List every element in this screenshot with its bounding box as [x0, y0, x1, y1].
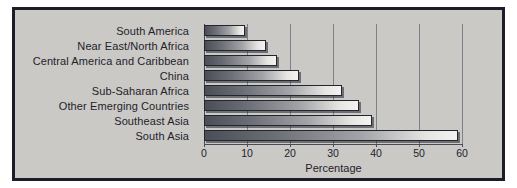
gridline	[462, 24, 463, 144]
bar	[204, 70, 299, 81]
x-axis-title: Percentage	[204, 162, 463, 174]
bar	[204, 55, 277, 66]
x-tick-label: 0	[201, 147, 207, 159]
bar-row	[204, 84, 462, 99]
chart-figure-frame: South AmericaNear East/North AfricaCentr…	[12, 7, 505, 181]
x-axis-tick-labels: 0102030405060	[204, 147, 474, 163]
category-label: South America	[15, 24, 195, 39]
x-tick-label: 20	[284, 147, 296, 159]
bar-row	[204, 99, 462, 114]
category-label: Sub-Saharan Africa	[15, 84, 195, 99]
plot-area	[204, 24, 462, 144]
category-label: Other Emerging Countries	[15, 99, 195, 114]
category-label: Near East/North Africa	[15, 39, 195, 54]
x-tick-label: 60	[456, 147, 468, 159]
bars-container	[204, 24, 462, 144]
category-axis-labels: South AmericaNear East/North AfricaCentr…	[15, 24, 195, 144]
x-tick-label: 30	[327, 147, 339, 159]
bar-row	[204, 129, 462, 144]
category-label: Central America and Caribbean	[15, 54, 195, 69]
x-tick-label: 40	[370, 147, 382, 159]
bar-row	[204, 39, 462, 54]
bar-row	[204, 114, 462, 129]
bar-row	[204, 69, 462, 84]
bar	[204, 100, 359, 111]
category-label: South Asia	[15, 129, 195, 144]
bar	[204, 40, 266, 51]
bar-row	[204, 54, 462, 69]
bar-row	[204, 24, 462, 39]
bar	[204, 115, 372, 126]
bar	[204, 85, 342, 96]
bar	[204, 130, 458, 141]
chart-plot-background: South AmericaNear East/North AfricaCentr…	[15, 10, 502, 178]
x-tick-label: 10	[241, 147, 253, 159]
category-label: Southeast Asia	[15, 114, 195, 129]
x-tick-label: 50	[413, 147, 425, 159]
category-label: China	[15, 69, 195, 84]
bar	[204, 25, 245, 36]
